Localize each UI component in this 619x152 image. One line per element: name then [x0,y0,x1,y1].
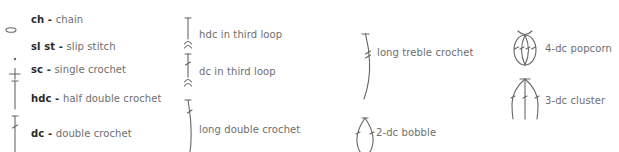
cluster-icon [508,78,542,124]
long-treble-icon [360,33,374,105]
bobble-icon [355,117,375,152]
abbr: sl st [31,41,55,52]
stitch-name: 3-dc cluster [545,95,605,106]
t-bar-icon [11,80,19,114]
stitch-name: long treble crochet [377,47,474,58]
abbr: dc [31,128,44,139]
stitch-name: double crochet [56,128,132,139]
hdc-third-loop-icon [183,17,193,55]
stitch-name: slip stitch [67,41,116,52]
stitch-name: dc in third loop [199,66,276,77]
abbr: sc [31,64,43,75]
stitch-name: chain [56,14,84,25]
t-bar-slash-icon [11,115,19,152]
stitch-name: single crochet [55,64,127,75]
stitch-name: hdc in third loop [199,29,282,40]
long-dc-icon [183,99,195,152]
popcorn-icon [512,30,538,72]
dc-third-loop-icon [183,53,193,93]
oval-icon [5,18,17,37]
stitch-name: half double crochet [63,93,162,104]
stitch-name: 2-dc bobble [376,127,436,138]
dot-icon [13,46,17,65]
abbr: hdc [31,93,52,104]
abbr: ch [31,14,44,25]
stitch-name: long double crochet [199,124,300,135]
stitch-name: 4-dc popcorn [545,43,612,54]
